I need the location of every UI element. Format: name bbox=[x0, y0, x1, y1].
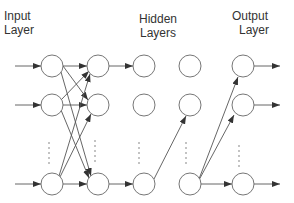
network-diagram bbox=[0, 0, 294, 203]
connections bbox=[15, 66, 280, 184]
node-output-1 bbox=[232, 55, 254, 77]
node-output-n bbox=[232, 173, 254, 195]
node-input-1 bbox=[41, 55, 63, 77]
node-input-n bbox=[41, 173, 63, 195]
node-hidden1-1 bbox=[87, 55, 109, 77]
nodes bbox=[41, 55, 254, 195]
node-hidden2-n bbox=[133, 173, 155, 195]
node-output-2 bbox=[232, 94, 254, 116]
node-hidden3-1 bbox=[179, 55, 201, 77]
node-hidden2-1 bbox=[133, 55, 155, 77]
node-hidden1-2 bbox=[87, 94, 109, 116]
ellipsis-dots bbox=[48, 140, 240, 167]
node-input-2 bbox=[41, 94, 63, 116]
node-hidden2-2 bbox=[133, 94, 155, 116]
node-hidden3-2 bbox=[179, 94, 201, 116]
node-hidden1-n bbox=[87, 173, 109, 195]
node-hidden3-n bbox=[179, 173, 201, 195]
